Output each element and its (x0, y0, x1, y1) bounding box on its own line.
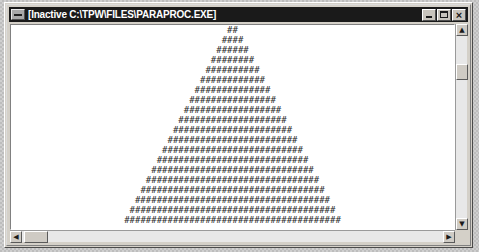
window-control-buttons (422, 9, 467, 21)
triangle-down-icon: ▼ (457, 219, 467, 229)
console-line: #################### (11, 115, 454, 125)
console-output: ########################################… (11, 25, 454, 225)
horizontal-scrollbar[interactable]: ◀ ▶ (10, 230, 455, 242)
console-line: ########################## (11, 145, 454, 155)
vertical-scrollbar-thumb[interactable] (456, 64, 468, 80)
console-line: ## (11, 25, 454, 35)
maximize-button[interactable] (437, 9, 451, 21)
minimize-button[interactable] (422, 9, 436, 21)
title-bar[interactable]: [Inactive C:\TPW\FILES\PARAPROC.EXE] (9, 7, 468, 22)
console-line: #################################### (11, 195, 454, 205)
console-line: ######################################## (11, 215, 454, 225)
console-line: ############ (11, 75, 454, 85)
console-line: ################ (11, 95, 454, 105)
console-line: ########## (11, 65, 454, 75)
window-inner-frame: [Inactive C:\TPW\FILES\PARAPROC.EXE] ###… (6, 4, 471, 246)
close-button[interactable] (452, 9, 466, 21)
console-line: ###################################### (11, 205, 454, 215)
triangle-right-icon: ▶ (444, 232, 454, 242)
console-line: ######################## (11, 135, 454, 145)
scroll-right-button[interactable]: ▶ (443, 231, 455, 243)
triangle-left-icon: ◀ (11, 232, 21, 242)
scrollbar-corner (455, 230, 467, 242)
window-title: [Inactive C:\TPW\FILES\PARAPROC.EXE] (28, 8, 422, 21)
console-line: ############## (11, 85, 454, 95)
system-menu-icon[interactable] (11, 9, 25, 20)
console-line: ################## (11, 105, 454, 115)
console-line: ############################## (11, 165, 454, 175)
console-line: ###### (11, 45, 454, 55)
console-line: ###################### (11, 125, 454, 135)
scroll-up-button[interactable]: ▲ (456, 24, 468, 36)
triangle-up-icon: ▲ (457, 25, 467, 35)
scroll-down-button[interactable]: ▼ (456, 218, 468, 230)
scroll-left-button[interactable]: ◀ (10, 231, 22, 243)
console-line: ############################ (11, 155, 454, 165)
application-window: [Inactive C:\TPW\FILES\PARAPROC.EXE] ###… (4, 2, 473, 248)
vertical-scrollbar[interactable]: ▲ ▼ (455, 24, 467, 230)
console-client-area[interactable]: ########################################… (10, 24, 455, 230)
console-line: ######## (11, 55, 454, 65)
console-line: ################################## (11, 185, 454, 195)
horizontal-scrollbar-thumb[interactable] (24, 231, 48, 243)
console-line: #### (11, 35, 454, 45)
console-line: ################################ (11, 175, 454, 185)
screenshot-root: [Inactive C:\TPW\FILES\PARAPROC.EXE] ###… (0, 0, 479, 252)
